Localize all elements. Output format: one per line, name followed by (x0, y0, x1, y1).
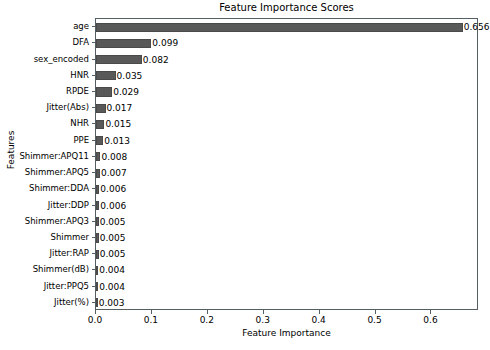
y-axis-tick-mark (92, 107, 96, 108)
bar-value-label: 0.005 (99, 249, 126, 259)
y-axis-tick-mark (92, 269, 96, 270)
y-axis-tick-mark (92, 221, 96, 222)
bar-value-label: 0.005 (99, 233, 126, 243)
y-axis-tick-label: PPE (73, 135, 89, 145)
bar-value-label: 0.656 (463, 22, 490, 32)
y-axis-tick-labels: ageDFAsex_encodedHNRRPDEJitter(Abs)NHRPP… (0, 18, 89, 310)
y-axis-tick-mark (92, 91, 96, 92)
y-axis-tick-label: age (73, 21, 89, 31)
bar-row: 0.005 (96, 250, 477, 259)
bar-value-label: 0.005 (99, 217, 126, 227)
bar-row: 0.082 (96, 55, 477, 64)
y-axis-tick-label: Jitter(Abs) (46, 102, 89, 112)
bar (96, 39, 151, 48)
y-axis-tick-label: Jitter:PPQ5 (44, 281, 89, 291)
y-axis-tick-mark (92, 123, 96, 124)
y-axis-tick-mark (92, 188, 96, 189)
bars-layer: 0.6560.0990.0820.0350.0290.0170.0150.013… (96, 19, 477, 309)
bar (96, 87, 112, 96)
bar-value-label: 0.008 (100, 152, 127, 162)
y-axis-tick-label: sex_encoded (34, 54, 89, 64)
y-axis-tick-mark (92, 172, 96, 173)
x-axis-label: Feature Importance (95, 328, 478, 338)
y-axis-tick-label: Shimmer:APQ5 (25, 167, 89, 177)
footer-clipped-text (95, 345, 478, 350)
bar-value-label: 0.006 (99, 184, 126, 194)
bar-value-label: 0.082 (142, 55, 169, 65)
y-axis-tick-label: Shimmer (51, 232, 89, 242)
bar-value-label: 0.006 (99, 201, 126, 211)
y-axis-tick-label: DFA (73, 37, 89, 47)
x-axis-tick-label: 0.5 (367, 315, 381, 325)
y-axis-tick-mark (92, 75, 96, 76)
chart-title: Feature Importance Scores (95, 2, 478, 13)
bar (96, 104, 106, 113)
bar-value-label: 0.035 (116, 71, 143, 81)
y-axis-tick-label: Shimmer:DDA (29, 183, 89, 193)
y-axis-tick-label: Jitter(%) (54, 297, 89, 307)
x-axis-tick-mark (319, 310, 320, 314)
bar (96, 23, 463, 32)
x-axis-tick-mark (95, 310, 96, 314)
y-axis-tick-mark (92, 253, 96, 254)
bar-row: 0.099 (96, 39, 477, 48)
x-axis-tick-label: 0.6 (423, 315, 437, 325)
x-axis-tick-mark (207, 310, 208, 314)
y-axis-tick-label: Shimmer(dB) (33, 264, 89, 274)
y-axis-tick-label: Shimmer:APQ11 (19, 151, 89, 161)
bar-value-label: 0.004 (98, 282, 125, 292)
bar-value-label: 0.003 (98, 298, 125, 308)
y-axis-tick-mark (92, 205, 96, 206)
x-axis-tick-mark (430, 310, 431, 314)
bar-row: 0.029 (96, 87, 477, 96)
y-axis-tick-mark (92, 237, 96, 238)
x-axis-tick-label: 0.2 (200, 315, 214, 325)
y-axis-tick-mark (92, 140, 96, 141)
bar-row: 0.003 (96, 298, 477, 307)
bar-row: 0.656 (96, 23, 477, 32)
bar (96, 71, 116, 80)
y-axis-tick-label: RPDE (66, 86, 89, 96)
y-axis-tick-label: Jitter:RAP (50, 248, 89, 258)
bar-value-label: 0.017 (106, 103, 133, 113)
bar-row: 0.004 (96, 282, 477, 291)
bar (96, 55, 142, 64)
bar-value-label: 0.015 (104, 119, 131, 129)
y-axis-tick-mark (92, 42, 96, 43)
bar-row: 0.017 (96, 104, 477, 113)
y-axis-tick-mark (92, 26, 96, 27)
y-axis-tick-mark (92, 59, 96, 60)
y-axis-tick-label: NHR (70, 118, 89, 128)
x-axis-tick-mark (151, 310, 152, 314)
bar-value-label: 0.004 (98, 265, 125, 275)
bar-row: 0.005 (96, 217, 477, 226)
bar (96, 136, 103, 145)
bar-row: 0.013 (96, 136, 477, 145)
x-axis-tick-label: 0.3 (256, 315, 270, 325)
y-axis-tick-mark (92, 156, 96, 157)
bar-row: 0.006 (96, 201, 477, 210)
bar-value-label: 0.007 (100, 168, 127, 178)
y-axis-tick-label: Shimmer:APQ3 (25, 216, 89, 226)
x-axis-tick-label: 0.4 (311, 315, 325, 325)
y-axis-tick-mark (92, 286, 96, 287)
bar-row: 0.006 (96, 185, 477, 194)
bar-row: 0.007 (96, 169, 477, 178)
bar (96, 120, 104, 129)
bar-row: 0.004 (96, 266, 477, 275)
bar-value-label: 0.099 (151, 38, 178, 48)
x-axis-tick-mark (375, 310, 376, 314)
bar-value-label: 0.029 (112, 87, 139, 97)
x-axis-tick-label: 0.1 (144, 315, 158, 325)
bar-row: 0.005 (96, 233, 477, 242)
x-axis-tick-mark (263, 310, 264, 314)
bar-row: 0.035 (96, 71, 477, 80)
x-axis-tick-label: 0.0 (88, 315, 102, 325)
bar-row: 0.015 (96, 120, 477, 129)
y-axis-tick-label: Jitter:DDP (48, 200, 89, 210)
y-axis-tick-mark (92, 302, 96, 303)
bar-value-label: 0.013 (103, 136, 130, 146)
bar-row: 0.008 (96, 152, 477, 161)
plot-area: 0.6560.0990.0820.0350.0290.0170.0150.013… (95, 18, 478, 310)
